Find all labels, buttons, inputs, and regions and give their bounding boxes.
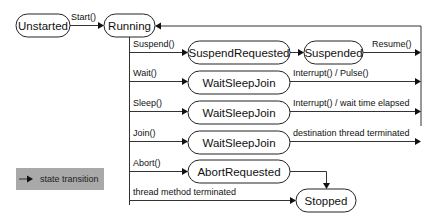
arrow-icon bbox=[290, 197, 296, 204]
arrow-icon bbox=[415, 108, 421, 115]
state-wait-sleep-join-label: WaitSleepJoin bbox=[202, 107, 275, 119]
arrow-icon bbox=[98, 22, 104, 29]
arrow-icon bbox=[415, 49, 421, 56]
suspend-label: Suspend() bbox=[133, 39, 175, 49]
arrow-icon bbox=[323, 183, 330, 189]
state-abort-requested-label: AbortRequested bbox=[197, 166, 280, 178]
wait-label: Wait() bbox=[133, 68, 157, 78]
arrow-icon bbox=[182, 78, 188, 85]
state-wait-sleep-join-label: WaitSleepJoin bbox=[202, 77, 275, 89]
state-suspended: Suspended bbox=[304, 41, 363, 64]
state-unstarted: Unstarted bbox=[16, 14, 70, 37]
state-abort-requested: AbortRequested bbox=[188, 160, 290, 183]
sleep-label: Sleep() bbox=[133, 98, 162, 108]
state-wait-sleep-join-label: WaitSleepJoin bbox=[202, 137, 275, 149]
state-stopped: Stopped bbox=[296, 189, 356, 212]
arrow-icon bbox=[182, 108, 188, 115]
arrow-icon bbox=[298, 49, 304, 56]
join-label: Join() bbox=[133, 128, 156, 138]
state-wait-sleep-join-join: WaitSleepJoin bbox=[188, 131, 290, 154]
thread-state-diagram: state transition Start() Suspend() Resum… bbox=[0, 0, 434, 223]
thread-terminated-label: thread method terminated bbox=[133, 187, 236, 197]
start-transition-label: Start() bbox=[71, 12, 96, 22]
state-stopped-label: Stopped bbox=[305, 195, 348, 207]
state-suspended-label: Suspended bbox=[304, 47, 362, 59]
state-running: Running bbox=[104, 14, 155, 37]
legend-label: state transition bbox=[40, 174, 99, 184]
state-unstarted-label: Unstarted bbox=[18, 20, 68, 32]
arrow-icon bbox=[155, 23, 161, 30]
arrow-icon bbox=[415, 78, 421, 85]
arrow-icon bbox=[182, 49, 188, 56]
legend: state transition bbox=[16, 168, 104, 190]
resume-label: Resume() bbox=[372, 39, 412, 49]
dest-terminated-label: destination thread terminated bbox=[293, 128, 410, 138]
abort-label: Abort() bbox=[133, 158, 161, 168]
state-wait-sleep-join-sleep: WaitSleepJoin bbox=[188, 101, 290, 124]
arrow-icon bbox=[415, 138, 421, 145]
state-suspend-requested-label: SuspendRequested bbox=[188, 47, 289, 59]
state-wait-sleep-join-wait: WaitSleepJoin bbox=[188, 71, 290, 94]
interrupt-pulse-label: Interrupt() / Pulse() bbox=[293, 68, 369, 78]
state-suspend-requested: SuspendRequested bbox=[188, 41, 290, 64]
arrow-icon bbox=[182, 138, 188, 145]
abortrequested-to-stopped-line bbox=[290, 172, 327, 185]
state-running-label: Running bbox=[108, 20, 151, 32]
arrow-icon bbox=[182, 168, 188, 175]
interrupt-elapsed-label: Interrupt() / wait time elapsed bbox=[293, 98, 410, 108]
